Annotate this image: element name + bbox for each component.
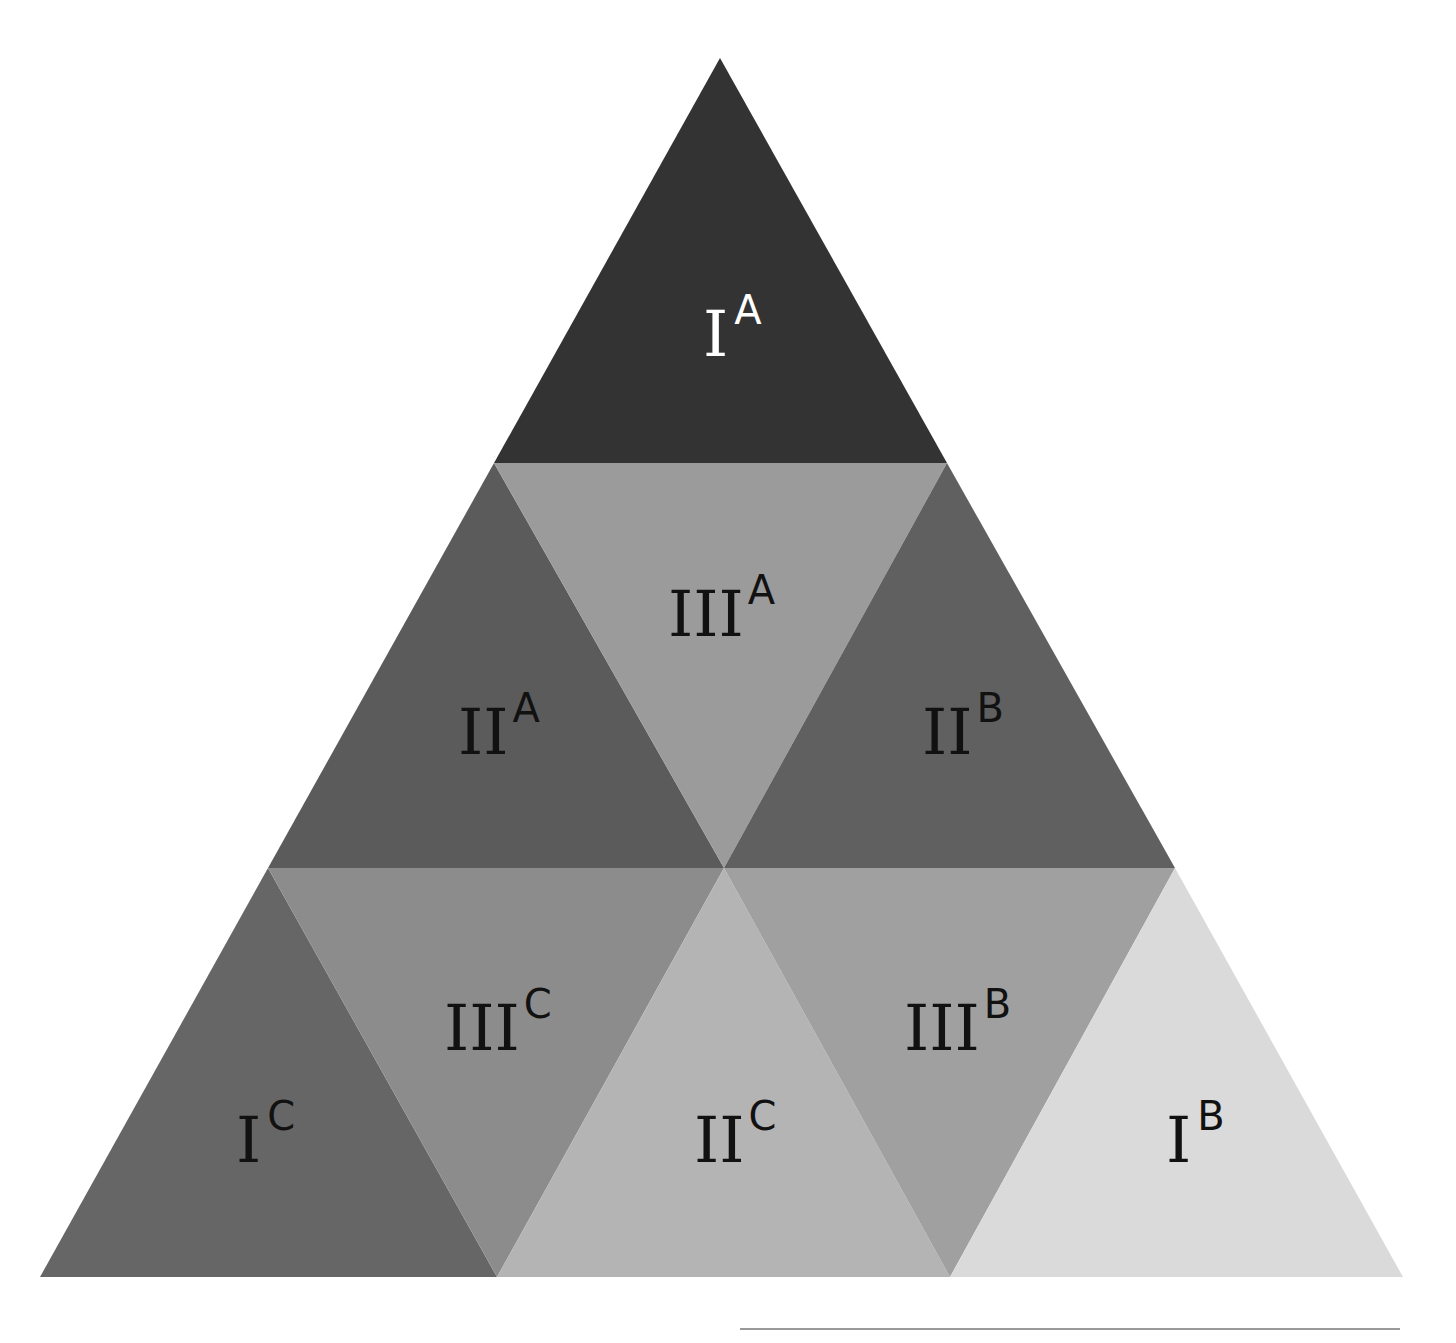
label-IIIC-main: III xyxy=(444,991,520,1065)
label-IC-main: I xyxy=(236,1103,261,1177)
label-IIIA-main: III xyxy=(668,577,744,651)
triangle-diagram: IA IIA IIIA IIB IC IIIC II xyxy=(0,0,1456,1343)
label-IIA-main: II xyxy=(458,695,509,769)
label-IIIB-sup: B xyxy=(984,981,1011,1027)
label-IIIC-sup: C xyxy=(524,981,552,1027)
label-IIIA-sup: A xyxy=(748,567,776,613)
label-IIB-sup: B xyxy=(977,685,1004,731)
label-IB-main: I xyxy=(1166,1103,1191,1177)
label-IB-sup: B xyxy=(1197,1093,1224,1139)
label-IIC-sup: C xyxy=(749,1093,777,1139)
label-IIIB-main: III xyxy=(904,991,980,1065)
label-IA-sup: A xyxy=(734,287,762,333)
label-IIC-main: II xyxy=(694,1103,745,1177)
region-IA: IA xyxy=(494,58,947,463)
label-IC-sup: C xyxy=(267,1093,295,1139)
triangle-IA xyxy=(494,58,947,463)
label-IIB-main: II xyxy=(922,695,973,769)
label-IA-main: I xyxy=(703,297,728,371)
label-IIA-sup: A xyxy=(513,685,541,731)
